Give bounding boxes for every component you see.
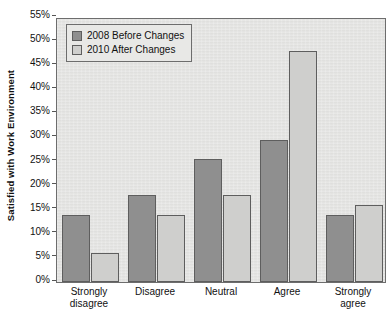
- bar-chart: Satisfied with Work Environment 0%5%10%1…: [0, 0, 390, 329]
- x-axis-category-line: Agree: [274, 286, 301, 297]
- y-axis-tick-label: 40%: [30, 81, 50, 93]
- y-axis-tick: 15%: [30, 202, 56, 214]
- bar: [194, 159, 222, 282]
- x-axis-category-line: disagree: [56, 298, 122, 310]
- x-axis-category-label: Neutral: [188, 286, 254, 298]
- y-axis-tick-label: 50%: [30, 33, 50, 45]
- x-axis-category-line: Neutral: [205, 286, 237, 297]
- legend-item: 2008 Before Changes: [72, 29, 184, 43]
- y-axis-tick: 30%: [30, 129, 56, 141]
- bar: [355, 205, 383, 282]
- x-axis-category-line: Strongly: [71, 286, 108, 297]
- bar: [326, 215, 354, 282]
- y-axis-tick-label: 10%: [30, 226, 50, 238]
- x-axis-category-line: Disagree: [135, 286, 175, 297]
- x-axis-category-label: Agree: [254, 286, 320, 298]
- y-axis-tick: 0%: [36, 274, 56, 286]
- x-axis-category-label: Stronglyagree: [320, 286, 386, 310]
- bar: [62, 215, 90, 282]
- x-axis-category-line: agree: [320, 298, 386, 310]
- bar-group: [255, 19, 321, 282]
- y-axis-tick-mark: [52, 15, 56, 16]
- x-axis-category-label: Disagree: [122, 286, 188, 298]
- bar: [157, 215, 185, 282]
- bar-group: [321, 19, 387, 282]
- y-axis-tick-label: 55%: [30, 9, 50, 21]
- x-axis-category-label: Stronglydisagree: [56, 286, 122, 310]
- y-axis-tick: 50%: [30, 33, 56, 45]
- x-axis: StronglydisagreeDisagreeNeutralAgreeStro…: [56, 286, 386, 326]
- y-axis-tick: 20%: [30, 178, 56, 190]
- legend-swatch-icon: [72, 31, 82, 41]
- legend-item-label: 2010 After Changes: [87, 44, 175, 56]
- bar: [128, 195, 156, 282]
- y-axis: 0%5%10%15%20%25%30%35%40%45%50%55%: [18, 14, 56, 288]
- legend: 2008 Before Changes2010 After Changes: [66, 24, 192, 62]
- y-axis-tick-label: 35%: [30, 105, 50, 117]
- y-axis-tick-label: 20%: [30, 178, 50, 190]
- y-axis-tick: 45%: [30, 57, 56, 69]
- bar: [91, 253, 119, 282]
- y-axis-tick-label: 25%: [30, 154, 50, 166]
- y-axis-tick: 40%: [30, 81, 56, 93]
- bar: [260, 140, 288, 282]
- y-axis-tick-label: 45%: [30, 57, 50, 69]
- y-axis-tick: 55%: [30, 9, 56, 21]
- legend-swatch-icon: [72, 45, 82, 55]
- y-axis-tick-label: 5%: [36, 250, 50, 262]
- y-axis-tick: 5%: [36, 250, 56, 262]
- y-axis-title-text: Satisfied with Work Environment: [6, 69, 17, 220]
- y-axis-tick-label: 30%: [30, 129, 50, 141]
- legend-item: 2010 After Changes: [72, 43, 184, 57]
- x-axis-category-line: Strongly: [335, 286, 372, 297]
- bar: [289, 51, 317, 282]
- bar: [223, 195, 251, 282]
- bar-group: [189, 19, 255, 282]
- y-axis-tick-label: 15%: [30, 202, 50, 214]
- y-axis-tick-label: 0%: [36, 274, 50, 286]
- y-axis-tick: 25%: [30, 154, 56, 166]
- y-axis-tick: 35%: [30, 105, 56, 117]
- y-axis-tick: 10%: [30, 226, 56, 238]
- legend-item-label: 2008 Before Changes: [87, 30, 184, 42]
